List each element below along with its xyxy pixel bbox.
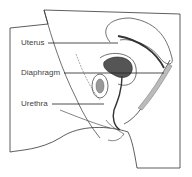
label-urethra: Urethra bbox=[21, 100, 48, 108]
pubic-bone-inner bbox=[96, 79, 104, 93]
rectum-fill bbox=[138, 64, 172, 110]
anatomy-illustration bbox=[0, 0, 192, 177]
diaphragm-shape bbox=[104, 57, 133, 77]
inner-line bbox=[76, 54, 100, 100]
abdominal-fold bbox=[60, 110, 110, 128]
vaginal-canal bbox=[113, 76, 122, 130]
label-diaphragm: Diaphragm bbox=[21, 69, 60, 77]
label-uterus: Uterus bbox=[21, 39, 45, 47]
